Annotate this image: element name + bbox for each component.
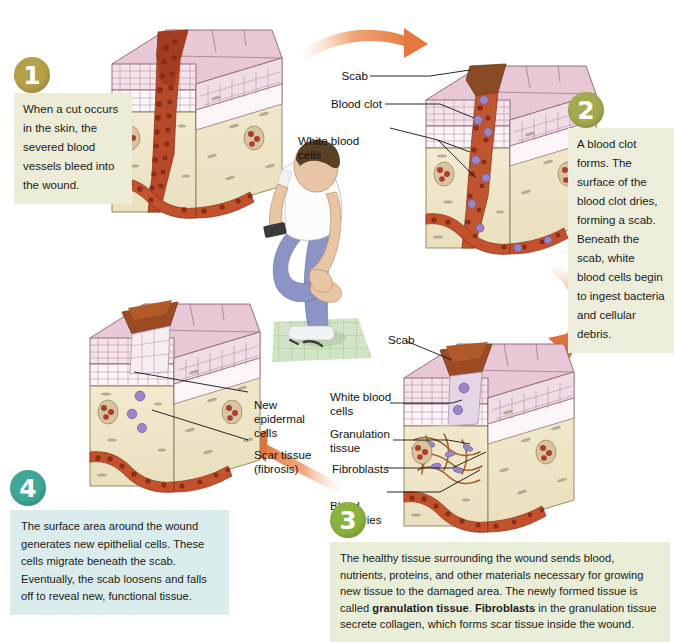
- stage-1-text-panel: When a cut occurs in the skin, the sever…: [14, 93, 132, 204]
- label-white-blood-cells-stage2: White blood cells: [298, 120, 388, 162]
- label-scab-stage3: Scab: [388, 333, 432, 347]
- label-scar-tissue-stage4: Scar tissue (fibrosis): [254, 434, 336, 476]
- label-blood-clot-stage2: Blood clot: [306, 97, 382, 111]
- stage-2-badge: 2: [568, 92, 604, 128]
- stage-3-bold-granulation: granulation tissue: [372, 602, 468, 614]
- stage-4-text-panel: The surface area around the wound genera…: [10, 510, 229, 615]
- label-scab-stage2: Scab: [320, 69, 368, 83]
- stage-1-skin-block: [112, 30, 282, 218]
- stage-1-number: 1: [23, 63, 40, 88]
- stage-3-skin-block: [404, 342, 574, 532]
- arrow-stage1-to-stage2: [300, 28, 428, 60]
- label-new-epidermal-cells-stage4: New epidermal cells: [254, 384, 324, 440]
- stage-1-text: When a cut occurs in the skin, the sever…: [23, 100, 123, 195]
- stage-4-badge: 4: [10, 470, 46, 506]
- stage-3-leader-lines: [386, 341, 486, 492]
- stage-4-text: The surface area around the wound genera…: [21, 518, 219, 606]
- stage-2-text-panel: A blood clot forms. The surface of the b…: [568, 128, 674, 353]
- stage-3-text: The healthy tissue surrounding the wound…: [340, 550, 660, 633]
- stage-1-badge: 1: [14, 57, 50, 93]
- label-granulation-tissue-stage3: Granulation tissue: [330, 413, 400, 455]
- stage-4-number: 4: [19, 476, 36, 501]
- label-fibroblasts-stage3: Fibroblasts: [332, 462, 400, 476]
- stage-3-text-panel: The healthy tissue surrounding the wound…: [330, 542, 670, 642]
- stage-2-text: A blood clot forms. The surface of the b…: [577, 135, 665, 344]
- label-white-blood-cells-stage3: White blood cells: [330, 376, 394, 418]
- stage-3-bold-fibroblasts: Fibroblasts: [475, 602, 535, 614]
- stage-4-leader-lines: [134, 372, 248, 440]
- stage-2-number: 2: [577, 98, 594, 123]
- stage-4-skin-block: [90, 300, 260, 492]
- person-illustration: [263, 140, 372, 362]
- stage-3-badge: 3: [330, 502, 366, 538]
- stage-3-number: 3: [339, 508, 356, 533]
